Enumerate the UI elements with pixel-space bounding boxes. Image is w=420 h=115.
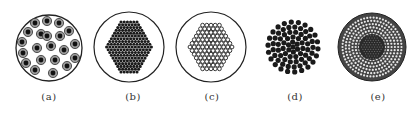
label-b: (b): [113, 91, 153, 102]
bundle-e-diagram: [0, 0, 420, 90]
label-d: (d): [275, 91, 315, 102]
panel-e: (e): [0, 0, 84, 115]
figure: (a) (b) (c) (d) (e): [0, 0, 420, 115]
label-e: (e): [358, 91, 398, 102]
label-c: (c): [192, 91, 232, 102]
